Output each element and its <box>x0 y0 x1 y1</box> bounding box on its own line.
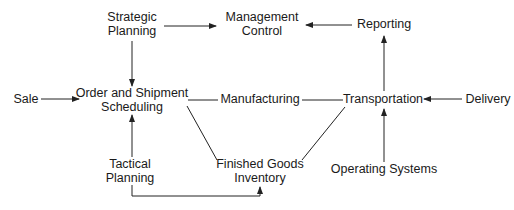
node-reporting-line1: Reporting <box>357 17 411 31</box>
node-finished-goods-inventory: Finished Goods Inventory <box>216 157 304 185</box>
node-order-shipment-scheduling: Order and Shipment Scheduling <box>76 86 189 114</box>
node-order-shipment-line2: Scheduling <box>76 100 189 114</box>
node-strategic-planning: Strategic Planning <box>107 10 156 38</box>
node-delivery: Delivery <box>465 92 510 106</box>
node-sale: Sale <box>13 92 38 106</box>
node-transportation-line1: Transportation <box>343 92 423 106</box>
node-reporting: Reporting <box>357 17 411 31</box>
edge-order-to-finished <box>187 106 217 160</box>
node-tactical-planning: Tactical Planning <box>106 157 155 185</box>
node-management-control-line2: Control <box>226 24 299 38</box>
node-strategic-planning-line2: Planning <box>107 24 156 38</box>
diagram-canvas: Strategic Planning Management Control Re… <box>0 0 514 210</box>
node-finished-goods-line2: Inventory <box>216 171 304 185</box>
node-transportation: Transportation <box>343 92 423 106</box>
node-order-shipment-line1: Order and Shipment <box>76 86 189 100</box>
node-finished-goods-line1: Finished Goods <box>216 157 304 171</box>
node-manufacturing: Manufacturing <box>220 92 299 106</box>
node-tactical-planning-line2: Planning <box>106 171 155 185</box>
edge-finished-to-transportation <box>302 107 345 160</box>
node-management-control-line1: Management <box>226 10 299 24</box>
node-operating-systems: Operating Systems <box>331 162 437 176</box>
edge-tactical-to-finished <box>132 185 260 196</box>
node-tactical-planning-line1: Tactical <box>106 157 155 171</box>
node-sale-line1: Sale <box>13 92 38 106</box>
node-management-control: Management Control <box>226 10 299 38</box>
node-manufacturing-line1: Manufacturing <box>220 92 299 106</box>
node-strategic-planning-line1: Strategic <box>107 10 156 24</box>
node-operating-systems-line1: Operating Systems <box>331 162 437 176</box>
node-delivery-line1: Delivery <box>465 92 510 106</box>
